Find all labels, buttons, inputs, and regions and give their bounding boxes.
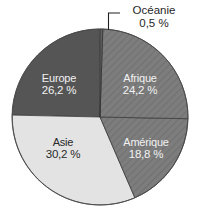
pie-slice-europe (12, 29, 100, 117)
pie-label-oceanie-value: 0,5 % (117, 17, 191, 30)
pie-label-oceanie-name: Océanie (117, 4, 191, 17)
pie-chart: Océanie 0,5 % Europe 26,2 % Afrique 24,2… (0, 0, 197, 215)
pie-slice-afrique (100, 29, 188, 119)
pie-chart-canvas (0, 0, 197, 215)
pie-label-oceanie: Océanie 0,5 % (117, 4, 191, 29)
